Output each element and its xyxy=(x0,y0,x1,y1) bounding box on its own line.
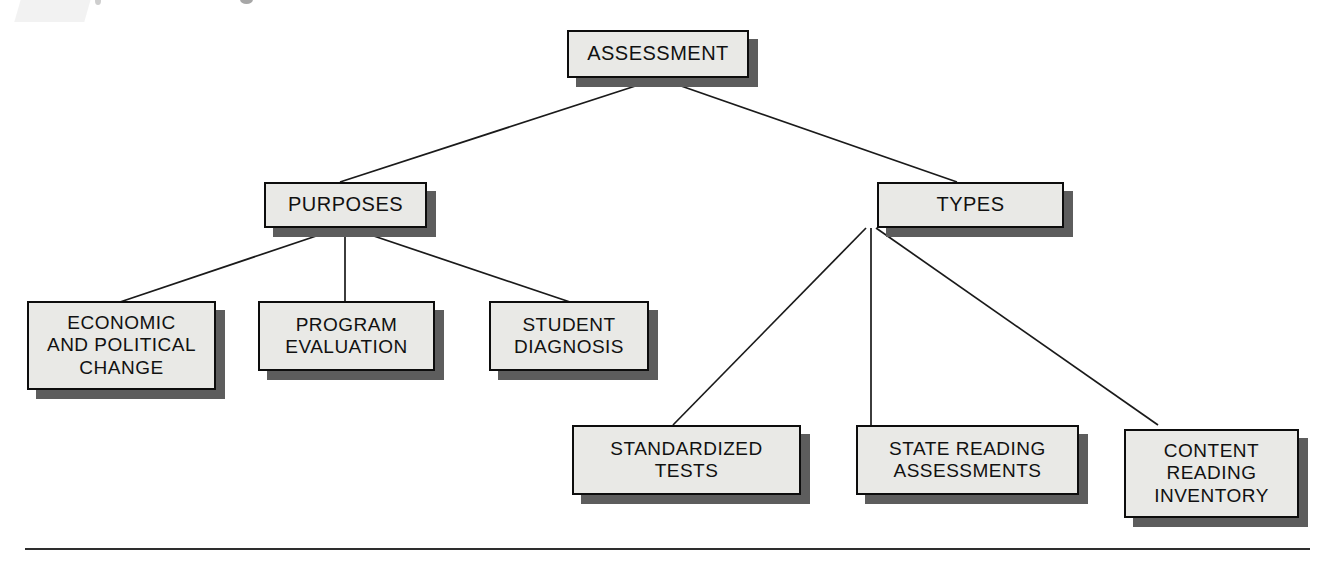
edge-purposes-economic xyxy=(120,228,340,302)
node-state-reading-assessments-label: STATE READING ASSESSMENTS xyxy=(864,438,1071,482)
node-economic-and-political-change-label: ECONOMIC AND POLITICAL CHANGE xyxy=(35,312,208,378)
page-edge-artifact xyxy=(14,0,91,22)
node-purposes-label: PURPOSES xyxy=(272,193,419,216)
edge-types-standardized xyxy=(673,228,866,425)
node-content-reading-inventory[interactable]: CONTENT READING INVENTORY xyxy=(1124,429,1299,518)
node-student-diagnosis-label: STUDENT DIAGNOSIS xyxy=(497,314,641,358)
node-economic-and-political-change[interactable]: ECONOMIC AND POLITICAL CHANGE xyxy=(27,301,216,390)
node-program-evaluation-label: PROGRAM EVALUATION xyxy=(266,314,427,358)
edge-purposes-student xyxy=(350,228,570,302)
edge-assessment-purposes xyxy=(340,79,657,182)
node-assessment[interactable]: ASSESSMENT xyxy=(567,30,749,78)
node-state-reading-assessments[interactable]: STATE READING ASSESSMENTS xyxy=(856,425,1079,495)
node-content-reading-inventory-label: CONTENT READING INVENTORY xyxy=(1132,440,1291,506)
node-purposes[interactable]: PURPOSES xyxy=(264,182,427,228)
edge-assessment-types xyxy=(661,79,957,182)
node-student-diagnosis[interactable]: STUDENT DIAGNOSIS xyxy=(489,301,649,371)
page-edge-speck xyxy=(240,0,253,4)
page-edge-speck xyxy=(95,0,101,5)
bottom-divider-rule xyxy=(25,548,1310,550)
node-assessment-label: ASSESSMENT xyxy=(575,42,741,65)
diagram-canvas: ASSESSMENT PURPOSES TYPES ECONOMIC AND P… xyxy=(0,0,1333,568)
edge-types-content xyxy=(876,228,1158,425)
node-program-evaluation[interactable]: PROGRAM EVALUATION xyxy=(258,301,435,371)
node-types[interactable]: TYPES xyxy=(877,182,1064,228)
node-standardized-tests-label: STANDARDIZED TESTS xyxy=(580,438,793,482)
node-types-label: TYPES xyxy=(885,193,1056,216)
node-standardized-tests[interactable]: STANDARDIZED TESTS xyxy=(572,425,801,495)
